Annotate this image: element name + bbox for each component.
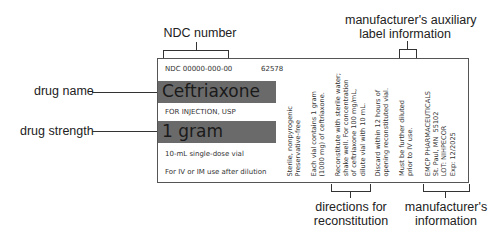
vial-size: 10-mL single-dose vial (165, 150, 244, 158)
bracket-ndc-left (163, 50, 164, 58)
callout-recon-line1: directions for (308, 200, 394, 214)
bracket-recon-stem (350, 191, 351, 198)
callout-aux-label-line1: manufacturer's auxiliary (345, 13, 465, 27)
vial-contents: Each vial contains 1 gram (1000 mg) of c… (310, 91, 326, 176)
callout-recon-line2: reconstitution (308, 214, 394, 228)
callout-drug-strength: drug strength (20, 124, 94, 138)
bracket-aux-right (416, 49, 417, 58)
callout-mfr-line2: information (400, 214, 492, 228)
sterility-info: Sterile, nonpyrogenic Preservative-free (286, 106, 302, 176)
drug-strength: 1 gram (162, 121, 223, 141)
bracket-aux-stem (407, 41, 408, 49)
bracket-ndc-bar (163, 50, 229, 51)
bracket-mfr-bar (423, 191, 470, 192)
dosage-form: FOR INJECTION, USP (165, 108, 236, 116)
bracket-ndc-stem (196, 42, 197, 50)
callout-mfr-line1: manufacturer's (400, 200, 492, 214)
drug-name-bar: Ceftriaxone (158, 81, 276, 103)
callout-aux-label: manufacturer's auxiliary label informati… (345, 13, 465, 41)
discard-instructions: Discard within 12 hours of opening recon… (374, 88, 390, 176)
leader-drug-name (92, 92, 157, 93)
bracket-aux-bar (399, 49, 417, 50)
callout-ndc-number: NDC number (160, 26, 240, 40)
drug-label: NDC 00000-000-00 62578 Ceftriaxone FOR I… (157, 58, 469, 183)
bracket-recon-left (331, 184, 332, 191)
callout-aux-label-line2: label information (345, 27, 465, 41)
product-code: 62578 (261, 65, 283, 73)
drug-name: Ceftriaxone (162, 81, 260, 101)
callout-drug-name: drug name (34, 84, 94, 98)
bracket-aux-left (399, 49, 400, 58)
bracket-mfr-left (423, 184, 424, 191)
ndc-code: NDC 00000-000-00 (165, 65, 232, 73)
bracket-recon-right (370, 184, 371, 191)
callout-manufacturer: manufacturer's information (400, 200, 492, 228)
route-of-administration: For IV or IM use after dilution (165, 168, 267, 176)
bracket-mfr-right (469, 184, 470, 191)
callout-reconstitution: directions for reconstitution (308, 200, 394, 228)
manufacturer-info: EMCP PHARMACEUTICALS St. Paul, MN 55102 … (424, 91, 457, 176)
bracket-ndc-right (228, 50, 229, 58)
dilution-instructions: Must be further diluted prior to IV use. (398, 100, 414, 176)
bracket-mfr-stem (445, 191, 446, 198)
drug-strength-bar: 1 gram (158, 121, 276, 143)
leader-drug-strength (92, 131, 157, 132)
reconstitution-directions: Reconstitute with sterile water; shake w… (334, 73, 367, 176)
bracket-recon-bar (331, 191, 371, 192)
